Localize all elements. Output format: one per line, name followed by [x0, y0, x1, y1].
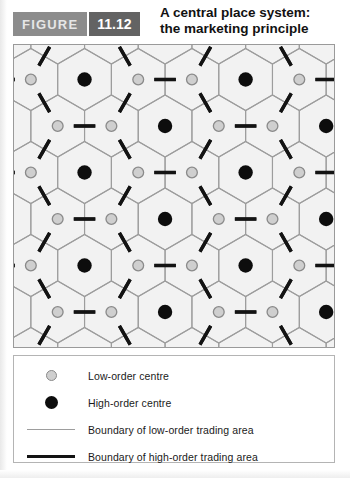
low-order-centre-dot	[52, 214, 63, 225]
high-order-centre-dot	[158, 212, 172, 226]
hexagon-lattice-svg	[14, 45, 334, 347]
legend-item-label: High-order centre	[88, 397, 171, 409]
low-order-centre-dot	[106, 121, 117, 132]
figure-number: 11.12	[89, 12, 139, 36]
page-edge-shadow-left	[0, 0, 7, 478]
low-order-centre-dot	[213, 214, 224, 225]
low-order-centre-dot	[187, 260, 198, 271]
high-order-centre-dot	[319, 212, 333, 226]
high-order-centre-icon	[14, 396, 88, 409]
high-order-centre-dot	[238, 258, 252, 272]
legend-row: Low-order centre	[14, 362, 336, 389]
legend-row: High-order centre	[14, 389, 336, 416]
low-order-centre-dot	[294, 260, 305, 271]
high-order-centre-dot	[319, 305, 333, 319]
legend-item-label: Boundary of high-order trading area	[88, 451, 258, 463]
low-order-centre-dot	[133, 260, 144, 271]
high-order-centre-dot	[158, 305, 172, 319]
low-order-centre-dot	[267, 214, 278, 225]
high-order-centre-dot	[77, 165, 91, 179]
low-order-centre-dot	[133, 74, 144, 85]
low-order-centre-dot	[133, 167, 144, 178]
legend-row: Boundary of low-order trading area	[14, 416, 336, 443]
figure-header: FIGURE 11.12 A central place system: the…	[0, 0, 350, 44]
high-order-centre-dot	[319, 119, 333, 133]
low-order-centre-dot	[294, 74, 305, 85]
legend-panel: Low-order centre High-order centre Bound…	[13, 355, 335, 463]
high-order-centre-dot	[77, 258, 91, 272]
legend-item-label: Low-order centre	[88, 370, 169, 382]
figure-badge-label: FIGURE	[13, 12, 87, 36]
figure-title-line-2: the marketing principle	[160, 21, 345, 37]
low-order-centre-dot	[25, 74, 36, 85]
legend-item-label: Boundary of low-order trading area	[88, 424, 254, 436]
page-edge-shadow-bottom	[0, 470, 350, 478]
legend-row: Boundary of high-order trading area	[14, 443, 336, 470]
high-order-centre-dot	[238, 165, 252, 179]
low-order-centre-dot	[267, 307, 278, 318]
high-order-centre-dot	[238, 72, 252, 86]
figure-badge: FIGURE 11.12	[13, 12, 140, 36]
low-order-centre-dot	[213, 121, 224, 132]
low-order-centre-dot	[106, 214, 117, 225]
low-order-centre-dot	[187, 167, 198, 178]
low-order-centre-dot	[213, 307, 224, 318]
thin-boundary-line-icon	[14, 429, 88, 430]
low-order-centre-dot	[106, 307, 117, 318]
central-place-map	[13, 44, 335, 348]
high-order-centre-dot	[158, 119, 172, 133]
high-order-centre-dot	[77, 72, 91, 86]
low-order-centre-dot	[294, 167, 305, 178]
figure-title-line-1: A central place system:	[160, 5, 310, 20]
low-order-centre-dot	[187, 74, 198, 85]
low-order-centre-dot	[52, 307, 63, 318]
low-order-centre-dot	[52, 121, 63, 132]
low-order-centre-icon	[14, 370, 88, 381]
thick-boundary-line-icon	[14, 455, 88, 458]
low-order-centre-dot	[25, 167, 36, 178]
figure-title: A central place system: the marketing pr…	[160, 5, 345, 36]
low-order-centre-dot	[267, 121, 278, 132]
low-order-centre-dot	[25, 260, 36, 271]
